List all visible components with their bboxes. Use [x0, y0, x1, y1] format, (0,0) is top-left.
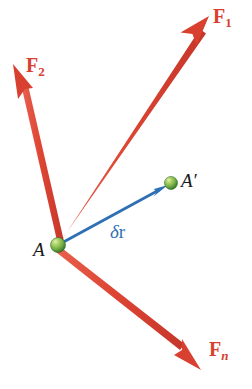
force-vector-f2	[13, 64, 65, 245]
dr-shaft	[58, 190, 159, 245]
f1-shaft	[58, 29, 206, 245]
f2-shaft	[22, 85, 65, 245]
f2-subscript: 2	[38, 64, 45, 79]
delta-symbol: δ	[110, 221, 119, 242]
point-label-a: A	[33, 240, 45, 259]
f1-base: F	[213, 5, 225, 27]
force-diagram-figure: F1 F2 Fn A A′ δr	[0, 0, 252, 389]
f2-base: F	[26, 54, 38, 76]
force-vector-fn	[54, 245, 201, 370]
f1-subscript: 1	[225, 15, 232, 30]
point-label-a-prime: A′	[181, 171, 197, 190]
r-symbol: r	[119, 221, 125, 242]
fn-base: F	[209, 338, 221, 360]
force-vector-f1	[58, 16, 209, 245]
force-label-f1: F1	[213, 6, 232, 29]
force-label-fn: Fn	[209, 339, 228, 362]
point-a-marker	[51, 238, 66, 253]
displacement-label-dr: δr	[110, 222, 125, 241]
force-label-f2: F2	[26, 55, 45, 78]
fn-subscript: n	[221, 348, 228, 363]
fn-shaft	[54, 245, 185, 350]
point-a-prime-marker	[165, 177, 178, 190]
